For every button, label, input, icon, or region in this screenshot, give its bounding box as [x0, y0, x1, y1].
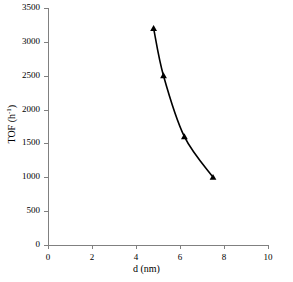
- y-axis-title: TOF (h-1): [5, 89, 17, 159]
- data-point-marker: [181, 133, 188, 139]
- y-axis: [44, 8, 48, 245]
- x-tick-label-8: 8: [214, 253, 234, 262]
- y-tick-label-3500: 3500: [0, 3, 40, 12]
- data-point-marker: [160, 72, 167, 78]
- x-tick-label-2: 2: [82, 253, 102, 262]
- y-axis-title-base: TOF (h: [6, 114, 17, 144]
- x-axis: [48, 245, 269, 249]
- x-tick-label-6: 6: [170, 253, 190, 262]
- y-axis-title-tail: ): [6, 105, 17, 108]
- y-axis-title-exponent: -1: [5, 108, 13, 114]
- y-tick-label-2500: 2500: [0, 71, 40, 80]
- x-tick-label-4: 4: [126, 253, 146, 262]
- y-tick-label-500: 500: [0, 206, 40, 215]
- x-tick-label-0: 0: [38, 253, 58, 262]
- x-axis-title: d (nm): [0, 263, 293, 274]
- data-point-marker: [150, 25, 157, 31]
- chart-container: 3500 3000 2500 2000 1500 1000 500 0 0 2 …: [0, 0, 293, 282]
- data-series-line: [154, 28, 213, 177]
- y-tick-label-1000: 1000: [0, 172, 40, 181]
- y-tick-label-0: 0: [0, 240, 40, 249]
- chart-plot-area: [0, 0, 293, 282]
- data-series-markers: [150, 25, 216, 180]
- y-tick-label-3000: 3000: [0, 37, 40, 46]
- x-tick-label-10: 10: [258, 253, 278, 262]
